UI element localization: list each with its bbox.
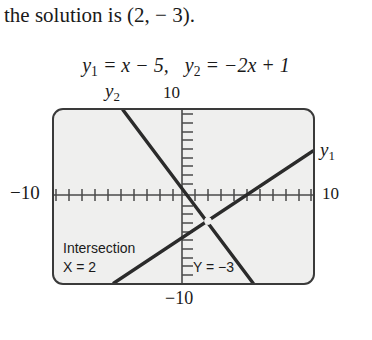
curve-label-y2: y2 [105,80,120,105]
axis-label-ymax: 10 [163,83,180,103]
equation-y2: y2 = −2x + 1 [185,54,290,76]
curve-label-y1-subscript: 1 [328,148,334,163]
equation-line: y1 = x − 5,y2 = −2x + 1 [0,53,372,84]
calculator-plot [54,110,313,283]
axis-label-xmin: −10 [10,182,40,204]
equation-y1-var: y [82,54,91,76]
curve-label-y2-subscript: 2 [113,89,119,104]
equation-y1: y1 = x − 5, [82,54,169,76]
curve-label-y1: y1 [320,139,335,164]
intersection-marker [205,218,212,225]
calculator-screen: Intersection X = 2 Y = −3 [52,108,315,285]
equation-y2-body: = −2x + 1 [205,54,289,76]
solution-sentence: the solution is (2, − 3). [4,2,368,28]
readout-intersection-label: Intersection [63,240,135,256]
equation-y2-var: y [185,54,194,76]
textbook-figure: the solution is (2, − 3). y1 = x − 5,y2 … [0,0,372,340]
equation-y1-subscript: 1 [91,64,98,79]
axis-label-ymin: −10 [165,288,193,309]
axis-label-xmax: 10 [322,184,339,204]
readout-y-value: Y = −3 [193,259,234,275]
equation-y1-body: = x − 5, [103,54,169,76]
readout-x-value: X = 2 [63,259,96,275]
equation-y2-subscript: 2 [194,64,201,79]
